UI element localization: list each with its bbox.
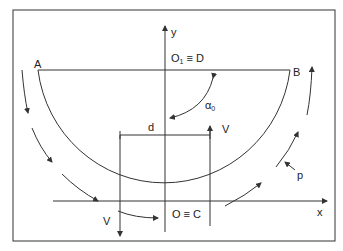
flow-arrow-bottom bbox=[118, 211, 158, 218]
flow-arrow-left-3 bbox=[62, 174, 98, 201]
label-V-right: V bbox=[222, 123, 230, 135]
label-p: p bbox=[297, 169, 303, 181]
label-O1-equiv-D: O1 ≡ D bbox=[171, 52, 204, 65]
diagram-frame bbox=[13, 10, 335, 241]
label-alpha0: α0 bbox=[205, 99, 215, 112]
flow-arrow-left-2 bbox=[32, 128, 52, 162]
p-pointer-arrow bbox=[285, 162, 295, 170]
semicircle-flow-diagram: A B y x O1 ≡ D O ≡ C d V V α0 p bbox=[0, 0, 343, 251]
label-y-axis: y bbox=[171, 26, 177, 38]
label-d: d bbox=[148, 121, 154, 133]
label-V-left: V bbox=[103, 215, 111, 227]
flow-arrow-right-1 bbox=[225, 183, 261, 206]
label-B: B bbox=[293, 66, 300, 78]
flow-arrow-right-3 bbox=[307, 67, 312, 115]
alpha-angle-arrow bbox=[170, 78, 213, 118]
label-O-equiv-C: O ≡ C bbox=[172, 208, 201, 220]
label-A: A bbox=[34, 58, 42, 70]
label-x-axis: x bbox=[317, 206, 323, 218]
flow-arrow-right-2 bbox=[276, 132, 298, 167]
flow-arrow-left-1 bbox=[22, 70, 28, 113]
semicircle-arc bbox=[38, 70, 290, 183]
